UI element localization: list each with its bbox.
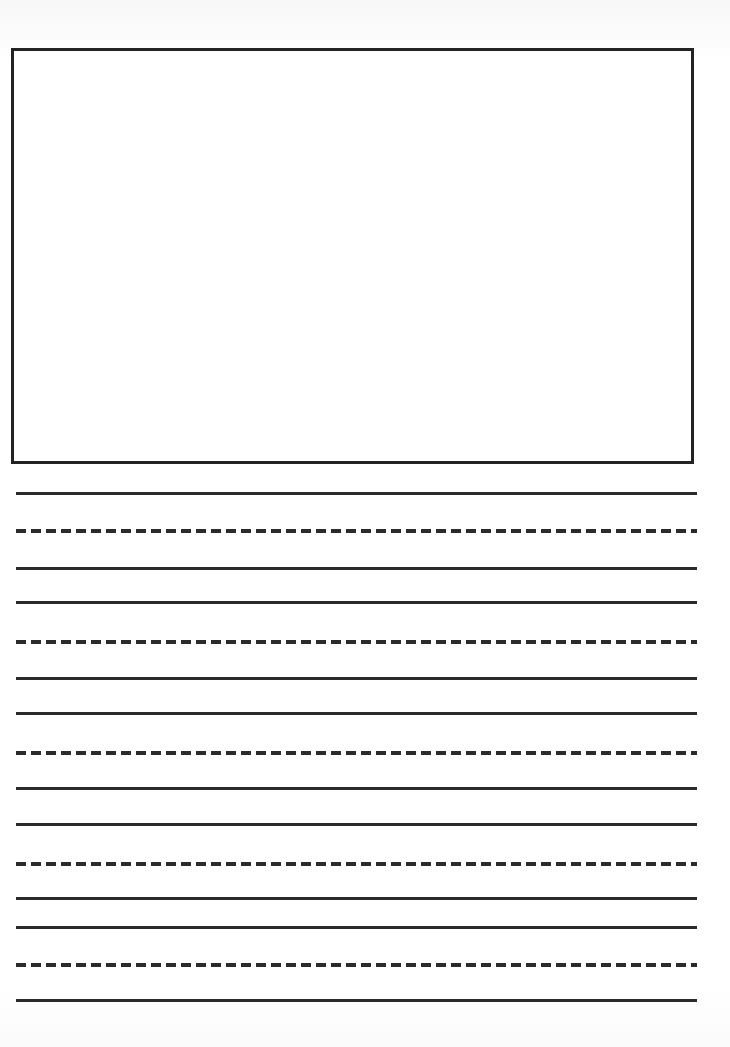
- writing-line-solid[interactable]: [16, 677, 697, 680]
- writing-line-solid[interactable]: [16, 492, 697, 495]
- writing-line-solid[interactable]: [16, 601, 697, 604]
- writing-line-solid[interactable]: [16, 926, 697, 929]
- writing-line-dashed[interactable]: [16, 640, 697, 644]
- writing-line-dashed[interactable]: [16, 963, 697, 967]
- writing-line-dashed[interactable]: [16, 751, 697, 755]
- worksheet-page: [0, 0, 730, 1047]
- writing-line-dashed[interactable]: [16, 862, 697, 866]
- drawing-box[interactable]: [11, 48, 694, 464]
- writing-line-solid[interactable]: [16, 787, 697, 790]
- writing-line-solid[interactable]: [16, 999, 697, 1002]
- writing-line-dashed[interactable]: [16, 529, 697, 533]
- writing-line-solid[interactable]: [16, 823, 697, 826]
- writing-line-solid[interactable]: [16, 897, 697, 900]
- writing-line-solid[interactable]: [16, 567, 697, 570]
- writing-line-solid[interactable]: [16, 712, 697, 715]
